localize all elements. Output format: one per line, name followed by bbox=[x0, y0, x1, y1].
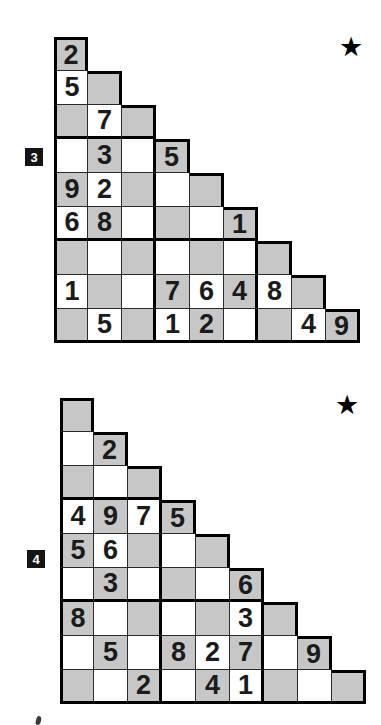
cell-r4c3[interactable]: 7 bbox=[128, 500, 162, 534]
cell-r9c9[interactable]: 9 bbox=[326, 309, 360, 343]
cell-r4c4[interactable]: 5 bbox=[156, 139, 190, 173]
puzzle-grid-3: 25735926811764851249 bbox=[54, 37, 360, 343]
cell-r9c5[interactable]: 2 bbox=[190, 309, 224, 343]
cell-r7c1[interactable] bbox=[54, 241, 88, 275]
cell-r1c1[interactable]: 2 bbox=[54, 37, 88, 71]
cell-r3c1[interactable] bbox=[60, 466, 94, 500]
puzzle-number-badge: 4 bbox=[27, 550, 45, 568]
cell-r6c6[interactable]: 1 bbox=[224, 207, 258, 241]
cell-r8c2[interactable]: 5 bbox=[94, 636, 128, 670]
cell-r9c1[interactable] bbox=[54, 309, 88, 343]
cell-r8c7[interactable] bbox=[264, 636, 298, 670]
cell-r6c5[interactable] bbox=[196, 568, 230, 602]
cell-r4c3[interactable] bbox=[122, 139, 156, 173]
cell-r7c4[interactable] bbox=[162, 602, 196, 636]
cell-r8c6[interactable]: 4 bbox=[224, 275, 258, 309]
cell-r4c2[interactable]: 9 bbox=[94, 500, 128, 534]
cell-r9c8[interactable] bbox=[298, 670, 332, 704]
cell-r7c3[interactable] bbox=[128, 602, 162, 636]
cell-r6c3[interactable] bbox=[122, 207, 156, 241]
cell-r9c3[interactable] bbox=[122, 309, 156, 343]
cell-r5c5[interactable] bbox=[196, 534, 230, 568]
cell-r9c4[interactable]: 1 bbox=[156, 309, 190, 343]
cell-r8c4[interactable]: 8 bbox=[162, 636, 196, 670]
cell-r9c7[interactable] bbox=[264, 670, 298, 704]
cell-r7c7[interactable] bbox=[258, 241, 292, 275]
cell-r8c1[interactable]: 1 bbox=[54, 275, 88, 309]
cell-r7c5[interactable] bbox=[196, 602, 230, 636]
cell-r6c3[interactable] bbox=[128, 568, 162, 602]
cell-r4c1[interactable] bbox=[54, 139, 88, 173]
cell-r3c2[interactable]: 7 bbox=[88, 105, 122, 139]
cell-r9c2[interactable]: 5 bbox=[88, 309, 122, 343]
cell-r5c3[interactable] bbox=[122, 173, 156, 207]
cell-r2c1[interactable]: 5 bbox=[54, 71, 88, 105]
cell-r9c3[interactable]: 2 bbox=[128, 670, 162, 704]
cell-r9c6[interactable] bbox=[224, 309, 258, 343]
cell-r1c1[interactable] bbox=[60, 398, 94, 432]
cell-r3c2[interactable] bbox=[94, 466, 128, 500]
cell-r6c6[interactable]: 6 bbox=[230, 568, 264, 602]
cell-r8c5[interactable]: 6 bbox=[190, 275, 224, 309]
cell-r9c4[interactable] bbox=[162, 670, 196, 704]
cell-r7c3[interactable] bbox=[122, 241, 156, 275]
cell-r7c1[interactable]: 8 bbox=[60, 602, 94, 636]
cell-r7c6[interactable]: 3 bbox=[230, 602, 264, 636]
cell-r7c5[interactable] bbox=[190, 241, 224, 275]
cell-r5c4[interactable] bbox=[156, 173, 190, 207]
cell-r8c1[interactable] bbox=[60, 636, 94, 670]
cell-r7c6[interactable] bbox=[224, 241, 258, 275]
cell-r7c2[interactable] bbox=[88, 241, 122, 275]
cell-r6c2[interactable]: 3 bbox=[94, 568, 128, 602]
puzzle-4: 4 ★ 2497556368358279241 bbox=[0, 363, 381, 725]
cell-r5c1[interactable]: 9 bbox=[54, 173, 88, 207]
cell-r8c8[interactable] bbox=[292, 275, 326, 309]
cell-r5c2[interactable]: 2 bbox=[88, 173, 122, 207]
cell-r9c7[interactable] bbox=[258, 309, 292, 343]
cell-r6c4[interactable] bbox=[156, 207, 190, 241]
cell-r8c6[interactable]: 7 bbox=[230, 636, 264, 670]
cell-r8c3[interactable] bbox=[128, 636, 162, 670]
cell-r5c2[interactable]: 6 bbox=[94, 534, 128, 568]
cell-r3c3[interactable] bbox=[122, 105, 156, 139]
cell-r6c5[interactable] bbox=[190, 207, 224, 241]
cell-r2c1[interactable] bbox=[60, 432, 94, 466]
cell-r5c3[interactable] bbox=[128, 534, 162, 568]
cell-r4c2[interactable]: 3 bbox=[88, 139, 122, 173]
cell-r6c2[interactable]: 8 bbox=[88, 207, 122, 241]
cell-r7c4[interactable] bbox=[156, 241, 190, 275]
cell-r7c7[interactable] bbox=[264, 602, 298, 636]
puzzle-page: 3 ★ 25735926811764851249 4 ★ 24975563683… bbox=[0, 0, 381, 725]
cell-r8c8[interactable]: 9 bbox=[298, 636, 332, 670]
cell-r2c2[interactable] bbox=[88, 71, 122, 105]
cell-r8c4[interactable]: 7 bbox=[156, 275, 190, 309]
puzzle-number-badge: 3 bbox=[25, 148, 43, 166]
cell-r8c7[interactable]: 8 bbox=[258, 275, 292, 309]
cell-r5c5[interactable] bbox=[190, 173, 224, 207]
cell-r5c1[interactable]: 5 bbox=[60, 534, 94, 568]
cell-r5c4[interactable] bbox=[162, 534, 196, 568]
cell-r9c5[interactable]: 4 bbox=[196, 670, 230, 704]
cell-r3c1[interactable] bbox=[54, 105, 88, 139]
cell-r9c1[interactable] bbox=[60, 670, 94, 704]
cell-r6c4[interactable] bbox=[162, 568, 196, 602]
puzzle-grid-4: 2497556368358279241 bbox=[60, 398, 366, 704]
cell-r4c1[interactable]: 4 bbox=[60, 500, 94, 534]
cell-r9c6[interactable]: 1 bbox=[230, 670, 264, 704]
cell-r6c1[interactable]: 6 bbox=[54, 207, 88, 241]
cell-r8c2[interactable] bbox=[88, 275, 122, 309]
puzzle-3: 3 ★ 25735926811764851249 bbox=[0, 0, 381, 363]
cell-r6c1[interactable] bbox=[60, 568, 94, 602]
cell-r3c3[interactable] bbox=[128, 466, 162, 500]
cell-r8c5[interactable]: 2 bbox=[196, 636, 230, 670]
cell-r9c2[interactable] bbox=[94, 670, 128, 704]
cell-r9c9[interactable] bbox=[332, 670, 366, 704]
cell-r8c3[interactable] bbox=[122, 275, 156, 309]
cell-r4c4[interactable]: 5 bbox=[162, 500, 196, 534]
cell-r9c8[interactable]: 4 bbox=[292, 309, 326, 343]
cell-r7c2[interactable] bbox=[94, 602, 128, 636]
cell-r2c2[interactable]: 2 bbox=[94, 432, 128, 466]
